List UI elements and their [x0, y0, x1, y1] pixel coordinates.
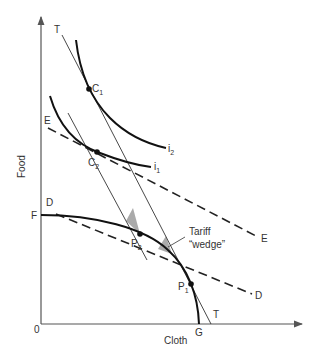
tariff-wedge-label-line2: “wedge” — [189, 239, 225, 250]
label-e-left: E — [44, 115, 51, 126]
point-p2 — [137, 231, 143, 237]
label-p1: P1 — [178, 281, 189, 294]
label-t-top: T — [54, 24, 60, 35]
point-c1 — [86, 86, 92, 92]
label-origin: 0 — [34, 324, 40, 335]
wedge-leader-line — [168, 237, 185, 247]
label-e-right: E — [261, 233, 268, 244]
point-c2 — [94, 149, 100, 155]
x-axis-label: Cloth — [164, 335, 187, 346]
tariff-wedge-label-line1: Tariff — [189, 226, 211, 237]
point-p1 — [188, 281, 194, 287]
label-i1: i1 — [154, 161, 160, 174]
trade-diagram: T T C1 C2 P2 P1 i2 i1 E E D D F G 0 Clot… — [0, 0, 316, 361]
label-p2: P2 — [131, 238, 142, 251]
line-d — [56, 214, 252, 294]
label-c1: C1 — [92, 83, 103, 96]
production-possibility-frontier — [41, 215, 199, 324]
label-c2: C2 — [88, 157, 99, 170]
label-i2: i2 — [168, 143, 174, 156]
label-g: G — [195, 327, 203, 338]
label-t-bottom: T — [213, 309, 219, 320]
indifference-curve-i2 — [76, 40, 166, 148]
y-axis-label: Food — [16, 155, 27, 178]
label-d-left: D — [46, 197, 53, 208]
label-d-right: D — [255, 290, 262, 301]
label-f: F — [31, 210, 37, 221]
